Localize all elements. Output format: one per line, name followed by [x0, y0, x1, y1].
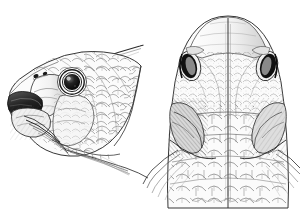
opercle [53, 92, 97, 148]
opercle-left [166, 98, 208, 158]
illustration-plate [0, 0, 300, 214]
opercle-right [248, 98, 290, 158]
eye [58, 68, 87, 97]
plate-canvas [0, 0, 300, 214]
lower-jaw [10, 106, 54, 140]
